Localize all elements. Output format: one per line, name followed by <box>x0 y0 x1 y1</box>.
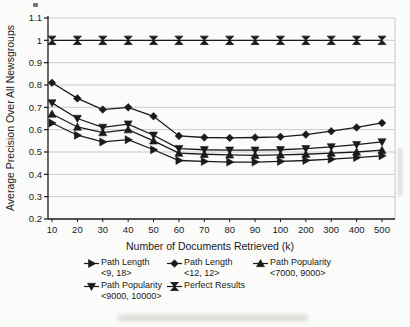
triangle-right-marker <box>89 260 96 268</box>
legend-label-line2: <7000, 9000> <box>270 268 331 279</box>
x-tick-label: 50 <box>148 224 159 235</box>
x-tick-label: 400 <box>349 224 365 235</box>
x-axis-title: Number of Documents Retrieved (k) <box>126 240 294 252</box>
series-bowtie <box>48 36 386 44</box>
legend-label-line2: <9, 18> <box>101 268 150 279</box>
triangle-down-icon <box>84 282 99 291</box>
x-tick-label: 90 <box>250 224 261 235</box>
gridlines <box>44 18 395 222</box>
triangle-right-marker <box>100 138 107 146</box>
diamond-marker <box>277 133 285 141</box>
legend-item-triangle-down: Path Popularity<9000, 10000> <box>84 280 162 301</box>
line-chart: 0.20.30.40.50.60.70.80.911.1102030405060… <box>0 0 410 255</box>
triangle-right-marker <box>49 119 56 127</box>
legend-label-line1: Path Popularity <box>101 280 162 291</box>
scan-artifact-speck <box>33 3 38 7</box>
diamond-marker <box>74 95 82 103</box>
triangle-right-marker <box>201 157 208 165</box>
diamond-marker <box>302 131 310 139</box>
diamond-marker <box>226 134 234 142</box>
x-tick-label: 100 <box>273 224 289 235</box>
triangle-up-marker <box>48 110 56 117</box>
diamond-marker <box>327 127 335 135</box>
triangle-right-icon <box>84 259 99 268</box>
y-tick-label: 1.1 <box>29 12 42 23</box>
diamond-marker <box>201 134 209 142</box>
legend-label-line2: <9000, 10000> <box>101 291 162 302</box>
triangle-right-marker <box>125 136 132 144</box>
legend-label-line1: Path Popularity <box>270 257 331 268</box>
legend-label-line1: Perfect Results <box>184 280 245 291</box>
x-tick-label: 80 <box>224 224 235 235</box>
legend-item-triangle-right: Path Length<9, 18> <box>84 257 150 278</box>
y-tick-label: 1 <box>37 35 42 46</box>
bowtie-icon <box>167 282 182 291</box>
triangle-down-marker <box>99 124 107 131</box>
x-tick-label: 20 <box>72 224 83 235</box>
diamond-icon <box>167 259 182 268</box>
x-tick-label: 200 <box>298 224 314 235</box>
precision-chart-figure: 0.20.30.40.50.60.70.80.911.1102030405060… <box>0 0 410 327</box>
legend-label-line1: Path Length <box>101 257 150 268</box>
diamond-marker <box>124 104 132 112</box>
triangle-up-icon <box>253 259 268 268</box>
triangle-right-marker <box>277 157 284 165</box>
chart-legend: Path Length<9, 18>Path Length<12, 12>Pat… <box>0 257 410 309</box>
y-tick-label: 0.7 <box>29 102 42 113</box>
x-tick-label: 300 <box>323 224 339 235</box>
diamond-marker <box>378 119 386 127</box>
x-tick-label: 500 <box>374 224 390 235</box>
triangle-right-marker <box>227 158 234 166</box>
triangle-right-marker <box>74 131 81 139</box>
legend-label: Path Popularity<9000, 10000> <box>101 280 162 301</box>
x-tick-label: 30 <box>97 224 108 235</box>
diamond-marker <box>251 134 259 142</box>
legend-label: Path Popularity<7000, 9000> <box>270 257 331 278</box>
series-triangle-up <box>48 110 386 159</box>
triangle-right-marker <box>151 146 158 154</box>
diamond-marker <box>171 260 179 268</box>
y-tick-label: 0.5 <box>29 146 42 157</box>
y-axis-title: Average Precision Over All Newsgroups <box>4 25 16 211</box>
y-tick-label: 0.2 <box>29 213 42 224</box>
legend-item-bowtie: Perfect Results <box>167 280 245 291</box>
legend-label: Perfect Results <box>184 280 245 291</box>
y-tick-label: 0.3 <box>29 191 42 202</box>
legend-label: Path Length<12, 12> <box>184 257 233 278</box>
legend-item-triangle-up: Path Popularity<7000, 9000> <box>253 257 331 278</box>
legend-label-line2: <12, 12> <box>184 268 233 279</box>
y-tick-label: 0.6 <box>29 124 42 135</box>
x-tick-label: 60 <box>174 224 185 235</box>
x-tick-label: 40 <box>123 224 134 235</box>
scan-artifact-smudge <box>398 148 402 196</box>
y-tick-label: 0.8 <box>29 79 42 90</box>
tick-labels: 0.20.30.40.50.60.70.80.911.1102030405060… <box>29 12 390 235</box>
y-tick-label: 0.9 <box>29 57 42 68</box>
data-series <box>48 36 386 166</box>
triangle-up-marker <box>73 123 81 130</box>
legend-label-line1: Path Length <box>184 257 233 268</box>
triangle-right-marker <box>176 156 183 164</box>
x-tick-label: 70 <box>199 224 210 235</box>
triangle-right-marker <box>252 158 259 166</box>
axes <box>48 16 395 219</box>
triangle-down-marker <box>48 100 56 107</box>
legend-label: Path Length<9, 18> <box>101 257 150 278</box>
triangle-down-marker <box>150 132 158 139</box>
x-tick-label: 10 <box>47 224 58 235</box>
y-tick-label: 0.4 <box>29 169 42 180</box>
legend-item-diamond: Path Length<12, 12> <box>167 257 233 278</box>
scan-artifact-smudge <box>118 315 308 321</box>
